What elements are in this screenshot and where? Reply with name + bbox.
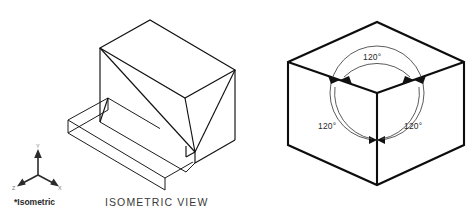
figure-canvas: Y X Z [0,0,476,220]
isometric-axis-triad: Y X Z [12,143,62,191]
isometric-axis-cube: 120° 120° 120° [288,22,464,185]
axis-label-z: Z [12,185,16,191]
angle-label-left: 120° [318,121,336,131]
isometric-solid-part [68,20,235,190]
axis-label-x: X [58,185,62,191]
isometric-view-caption: ISOMETRIC VIEW [105,196,209,208]
isometric-figure-root: Y X Z [0,0,476,220]
angle-label-top: 120° [363,52,381,62]
isometric-axis-caption: *Isometric [14,197,55,207]
axis-label-y: Y [36,143,40,149]
leader-arc-right [382,87,419,139]
leader-arc-left [335,87,372,139]
angle-label-right: 120° [404,121,422,131]
leader-arc-top [344,63,410,77]
